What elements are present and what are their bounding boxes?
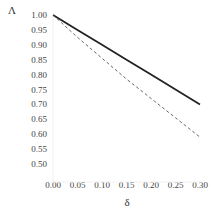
y-tick-label: 0.50 — [31, 159, 47, 169]
line-chart: Λ 1.000.950.900.850.800.750.700.650.600.… — [0, 0, 213, 218]
x-axis-title: δ — [124, 196, 129, 208]
y-tick-label: 0.75 — [31, 85, 47, 95]
y-tick-label: 0.60 — [31, 129, 47, 139]
y-tick-label: 0.70 — [31, 99, 47, 109]
series-dashed-line — [53, 15, 200, 137]
y-axis-label: Λ — [8, 4, 16, 16]
series-solid-line — [53, 15, 200, 104]
y-tick-label: 0.65 — [31, 114, 47, 124]
y-tick-label: 0.90 — [31, 40, 47, 50]
series-lines — [53, 15, 200, 137]
y-tick-label: 0.85 — [31, 55, 47, 65]
y-tick-label: 0.80 — [31, 70, 47, 80]
y-axis-ticks: 1.000.950.900.850.800.750.700.650.600.55… — [31, 10, 47, 169]
y-tick-label: 0.95 — [31, 25, 47, 35]
y-tick-label: 0.55 — [31, 144, 47, 154]
y-axis-title: Λ — [8, 4, 16, 16]
y-tick-label: 1.00 — [31, 10, 47, 20]
